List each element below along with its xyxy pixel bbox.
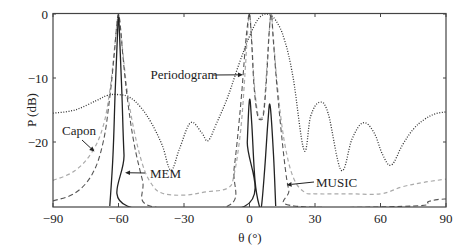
y-axis-label: P (dB) [24, 93, 39, 127]
x-axis-label: θ (°) [238, 230, 261, 245]
plot-area [53, 13, 446, 213]
y-tick-label: −20 [28, 135, 48, 150]
y-tick-label: 0 [42, 7, 49, 22]
x-tick-label: −60 [108, 211, 128, 226]
arrow-head-icon [125, 170, 130, 175]
annotation-capon: Capon [62, 123, 96, 138]
annotation-music: MUSIC [316, 175, 357, 190]
annotation-arrow [82, 140, 91, 148]
y-tick-label: −10 [28, 71, 48, 86]
x-tick-label: −90 [43, 211, 63, 226]
x-tick-label: 0 [246, 211, 253, 226]
x-tick-label: 30 [309, 211, 322, 226]
spectrum-chart: −90−60−3003060900−10−20 PeriodogramCapon… [0, 0, 466, 248]
axis-ticks: −90−60−3003060900−10−20 [28, 7, 453, 227]
series-mem [110, 14, 276, 214]
arrow-head-icon [238, 73, 243, 78]
annotation-periodogram: Periodogram [150, 67, 217, 82]
x-tick-label: 60 [374, 211, 387, 226]
annotation-arrow [292, 182, 314, 184]
x-tick-label: 90 [440, 211, 453, 226]
series-periodogram [53, 14, 446, 171]
annotation-mem: MEM [150, 166, 182, 181]
x-tick-label: −30 [174, 211, 194, 226]
